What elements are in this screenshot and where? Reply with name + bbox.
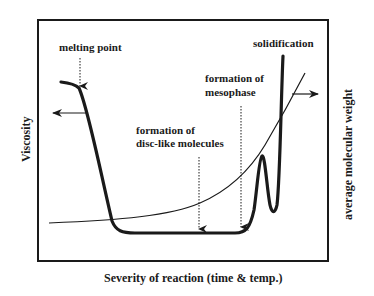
- solidification-label: solidification: [253, 37, 314, 49]
- y-axis-right-label: average molecular weight: [341, 89, 355, 220]
- y-axis-left-label: Viscosity: [19, 116, 33, 162]
- melting-point-label: melting point: [59, 41, 122, 53]
- x-axis-label: Severity of reaction (time & temp.): [104, 271, 282, 285]
- mesophase-label-line2: mesophase: [205, 86, 256, 98]
- mesophase-label-line1: formation of: [205, 72, 264, 84]
- disc-like-label-line2: disc-like molecules: [136, 137, 224, 149]
- disc-like-label-line1: formation of: [136, 124, 195, 136]
- diagram-canvas: melting point solidification formation o…: [0, 0, 374, 296]
